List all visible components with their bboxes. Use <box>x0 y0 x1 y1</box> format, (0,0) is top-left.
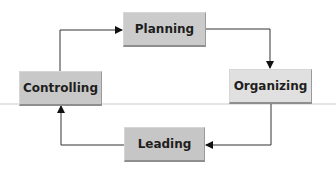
arrow-leading-to-controlling <box>61 106 124 145</box>
node-controlling: Controlling <box>19 71 102 106</box>
node-label: Organizing <box>234 79 308 93</box>
node-leading: Leading <box>124 127 205 162</box>
node-organizing: Organizing <box>229 69 312 104</box>
node-planning: Planning <box>123 12 206 47</box>
arrow-planning-to-organizing <box>206 29 270 68</box>
node-label: Controlling <box>23 81 98 95</box>
node-label: Planning <box>135 22 194 36</box>
arrow-organizing-to-leading <box>206 104 271 145</box>
node-label: Leading <box>138 137 192 151</box>
arrow-controlling-to-planning <box>60 30 122 71</box>
